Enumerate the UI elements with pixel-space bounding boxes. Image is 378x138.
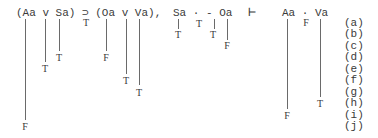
row-label-b: (b) [344, 29, 364, 40]
mark-horseshoe: T [83, 18, 89, 28]
line-f1-Sa [59, 19, 60, 51]
mark-f2-neg: T [210, 30, 216, 40]
row-label-f: (f) [344, 75, 364, 86]
mark-f2-Sa: T [175, 30, 181, 40]
line-f2-Oa [227, 19, 228, 40]
mark-f1-Aa: F [22, 122, 28, 132]
mark-f1-Va: T [136, 88, 142, 98]
line-c-Aa [287, 19, 288, 109]
line-c-Va [320, 19, 321, 97]
row-label-j: (j) [344, 121, 364, 132]
line-f1-Aa [25, 19, 26, 120]
mark-f2-Oa: F [224, 41, 230, 51]
line-f1-Oa [106, 19, 107, 51]
line-f1-or1 [45, 19, 46, 62]
mark-c-dot: F [303, 18, 309, 28]
row-label-h: (h) [344, 98, 364, 109]
mark-c-Aa: F [284, 111, 290, 121]
premise-2: Sa · - Oa [173, 8, 232, 19]
mark-c-Va: T [317, 99, 323, 109]
mark-f1-Sa: T [56, 53, 62, 63]
line-f2-neg [214, 19, 215, 29]
line-f1-or2 [126, 19, 127, 74]
mark-f2-dot: T [196, 19, 202, 29]
mark-f1-or1: T [42, 64, 48, 74]
mark-f1-or2: T [123, 76, 129, 86]
line-f1-Va [139, 19, 140, 85]
line-f2-Sa [178, 19, 179, 29]
mark-f1-Oa: F [103, 53, 109, 63]
turnstile-symbol: ⊢ [248, 7, 256, 18]
row-label-d: (d) [344, 52, 364, 63]
